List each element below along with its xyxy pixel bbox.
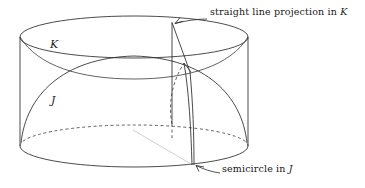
- top-annotation-arrow-shaft: [175, 19, 207, 24]
- semicircle-visible-right: [190, 72, 194, 165]
- cylinder-label-K: K: [49, 38, 59, 51]
- bottom-annotation-arrow-shaft: [196, 166, 220, 174]
- semicircle-ground-trace: [133, 130, 191, 164]
- top-annotation-arrow-head: [175, 18, 183, 24]
- bottom-annotation-label: semicircle in J: [222, 163, 293, 174]
- cylinder-top-ellipse: [20, 16, 248, 58]
- top-annotation-text: straight line projection in: [210, 6, 337, 17]
- top-annotation-symbol: K: [340, 6, 347, 17]
- top-annotation-label: straight line projection in K: [210, 6, 347, 17]
- straight-line-projection-slant: [172, 23, 190, 73]
- geometry-figure: K J: [0, 0, 365, 188]
- cylinder-bottom-ellipse-front: [20, 146, 248, 167]
- cylinder-bottom-ellipse-back: [20, 125, 248, 146]
- bottom-annotation-text: semicircle in: [222, 163, 286, 174]
- semicircle-hidden-half: [171, 63, 185, 124]
- bottom-annotation-symbol: J: [289, 163, 293, 174]
- dome-label-J: J: [49, 94, 56, 107]
